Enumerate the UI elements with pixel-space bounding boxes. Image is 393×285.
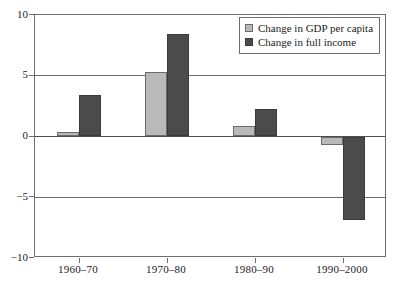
x-axis-tick-label: 1980–90 [209, 263, 299, 275]
y-axis-tick-label: 0 [0, 130, 28, 141]
y-axis-tick-label: −5 [0, 191, 28, 202]
legend-item-full-income: Change in full income [245, 35, 373, 49]
legend-label-gdp-per-capita: Change in GDP per capita [258, 22, 373, 34]
bar [255, 109, 277, 136]
legend-label-full-income: Change in full income [258, 36, 356, 48]
bar [79, 95, 101, 136]
bar [57, 132, 79, 136]
y-axis-tick-label: −10 [0, 252, 28, 263]
gridline [35, 75, 385, 76]
y-axis-tick-label: 5 [0, 69, 28, 80]
legend-swatch-dark-gray-square-icon [245, 38, 253, 46]
legend-item-gdp-per-capita: Change in GDP per capita [245, 21, 373, 35]
bar [145, 72, 167, 136]
gridline [35, 197, 385, 198]
bar [167, 34, 189, 136]
cut-off-caption-sliver [60, 0, 310, 5]
bar [321, 137, 343, 146]
legend-swatch-light-gray-square-icon [245, 24, 253, 32]
x-axis-tick-label: 1960–70 [33, 263, 123, 275]
bar [343, 137, 365, 221]
y-axis: 1050−5−10 [0, 0, 34, 285]
legend: Change in GDP per capita Change in full … [239, 17, 380, 54]
bar-chart-figure: 1050−5−10 1960–701970–801980–901990–2000… [0, 0, 393, 285]
x-axis-tick-label: 1970–80 [121, 263, 211, 275]
x-axis-tick-label: 1990–2000 [297, 263, 387, 275]
bar [233, 126, 255, 136]
y-axis-tick-label: 10 [0, 9, 28, 20]
y-axis-tick-mark [29, 257, 34, 258]
